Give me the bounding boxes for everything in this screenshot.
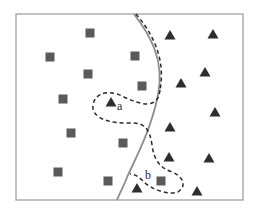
square-point-icon xyxy=(84,70,93,79)
square-point-icon xyxy=(86,29,95,38)
square-point-icon xyxy=(104,177,113,186)
square-point-icon xyxy=(131,52,140,61)
square-point-icon xyxy=(67,129,76,138)
classification-diagram: ab xyxy=(0,0,254,213)
square-point-icon xyxy=(119,139,128,148)
square-point-icon xyxy=(138,82,147,91)
square-point-icon xyxy=(59,95,68,104)
square-point-icon xyxy=(46,53,55,62)
region-label-b: b xyxy=(145,168,151,182)
region-label-a: a xyxy=(117,99,123,113)
square-point-icon xyxy=(157,177,166,186)
square-point-icon xyxy=(54,168,63,177)
